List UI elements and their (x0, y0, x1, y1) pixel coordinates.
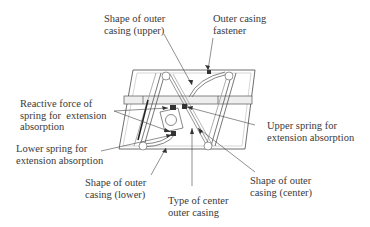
horizontal-bar (124, 96, 252, 104)
right-rail (206, 73, 236, 146)
label-center-casing-type: Type of center outer casing (168, 195, 228, 218)
outer-casing-diagram: Shape of outer casing (upper) Outer casi… (0, 0, 370, 227)
label-lower-spring: Lower spring for extension absorption (16, 143, 103, 166)
label-center-casing-shape: Shape of outer casing (center) (250, 175, 312, 198)
label-reactive-force: Reactive force of spring for extension a… (20, 98, 107, 133)
motor-box (160, 108, 183, 132)
label-outer-casing-fastener: Outer casing fastener (213, 13, 266, 36)
label-upper-spring: Upper spring for extension absorption (267, 120, 354, 143)
label-upper-casing-shape: Shape of outer casing (upper) (104, 13, 165, 36)
label-lower-casing-shape: Shape of outer casing (lower) (85, 177, 146, 200)
